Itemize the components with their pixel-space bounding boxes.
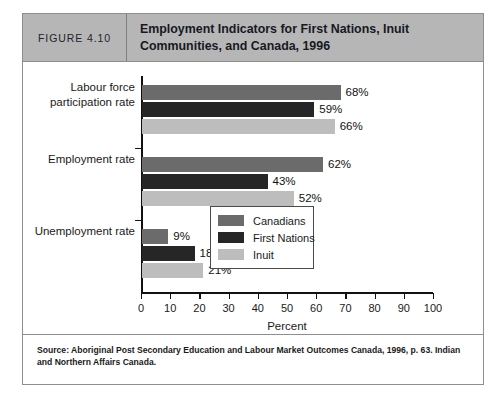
category-label: Unemployment rate — [35, 224, 135, 239]
bar — [142, 102, 314, 117]
bar — [142, 229, 168, 244]
legend-item: Inuit — [218, 247, 305, 262]
x-tick-mark — [141, 293, 142, 299]
bar-value-label: 52% — [299, 191, 322, 206]
x-tick-mark — [258, 293, 259, 299]
x-tick-label: 80 — [368, 302, 380, 314]
legend-item: Canadians — [218, 213, 305, 228]
x-tick-mark — [404, 293, 405, 299]
legend-swatch — [218, 215, 244, 226]
bar — [142, 157, 323, 172]
x-tick-mark — [345, 293, 346, 299]
category-label: Labour force participation rate — [50, 80, 135, 110]
bar — [142, 174, 268, 189]
x-tick-mark — [199, 293, 200, 299]
x-tick-label: 10 — [164, 302, 176, 314]
figure-title: Employment Indicators for First Nations,… — [127, 14, 483, 61]
x-tick-label: 100 — [424, 302, 442, 314]
figure-number-label: FIGURE 4.10 — [23, 14, 127, 61]
x-tick-label: 70 — [339, 302, 351, 314]
legend-item: First Nations — [218, 230, 305, 245]
bar-value-label: 68% — [346, 85, 369, 100]
x-tick-label: 20 — [193, 302, 205, 314]
x-tick-label: 50 — [281, 302, 293, 314]
x-tick-mark — [170, 293, 171, 299]
bar — [142, 85, 341, 100]
bar — [142, 263, 203, 278]
legend-label: First Nations — [253, 232, 315, 244]
bar — [142, 246, 195, 261]
x-tick-mark — [433, 293, 434, 299]
x-tick-mark — [229, 293, 230, 299]
bar-value-label: 62% — [328, 157, 351, 172]
x-axis-title: Percent — [141, 320, 433, 332]
x-tick-label: 90 — [398, 302, 410, 314]
x-tick-label: 60 — [310, 302, 322, 314]
category-separator-tick — [135, 220, 141, 221]
x-tick-mark — [375, 293, 376, 299]
bar-value-label: 9% — [173, 229, 190, 244]
legend-label: Canadians — [253, 215, 306, 227]
category-label: Employment rate — [48, 152, 135, 167]
bar-value-label: 59% — [319, 102, 342, 117]
x-tick-label: 30 — [222, 302, 234, 314]
bar-value-label: 43% — [273, 174, 296, 189]
x-tick-label: 0 — [138, 302, 144, 314]
legend-swatch — [218, 232, 244, 243]
x-tick-mark — [316, 293, 317, 299]
figure-container: FIGURE 4.10 Employment Indicators for Fi… — [22, 13, 484, 385]
source-divider — [23, 334, 483, 335]
legend-swatch — [218, 249, 244, 260]
figure-header: FIGURE 4.10 Employment Indicators for Fi… — [23, 14, 483, 62]
x-tick-label: 40 — [252, 302, 264, 314]
category-axis-labels: Labour force participation rateEmploymen… — [23, 62, 135, 278]
bar — [142, 119, 335, 134]
legend-label: Inuit — [253, 249, 274, 261]
x-tick-mark — [287, 293, 288, 299]
source-note: Source: Aboriginal Post Secondary Educat… — [37, 344, 469, 369]
bar-value-label: 66% — [340, 119, 363, 134]
category-separator-tick — [135, 148, 141, 149]
bar — [142, 191, 294, 206]
chart-legend: CanadiansFirst NationsInuit — [210, 206, 314, 269]
chart-area: Labour force participation rateEmploymen… — [23, 62, 483, 334]
